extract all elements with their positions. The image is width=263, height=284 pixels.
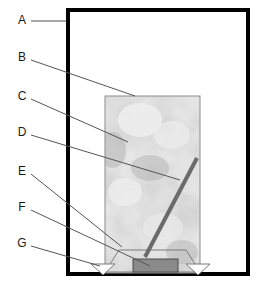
- callout-label-a: A: [18, 13, 26, 27]
- diagram-canvas: A B C D E F G: [0, 0, 263, 284]
- diagram-root: A B C D E F G: [0, 0, 263, 284]
- callout-label-d: D: [18, 125, 27, 139]
- callout-label-g: G: [17, 236, 26, 250]
- callout-label-e: E: [18, 164, 26, 178]
- callout-label-c: C: [18, 89, 27, 103]
- callout-label-b: B: [18, 50, 26, 64]
- callout-label-f: F: [18, 200, 25, 214]
